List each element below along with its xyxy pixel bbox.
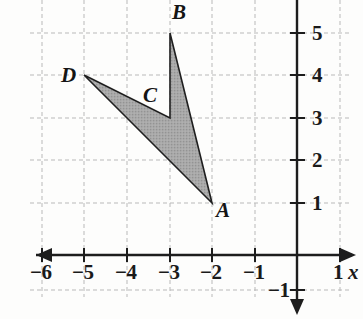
y-axis [290, 0, 304, 315]
coordinate-plane-figure: −6 −5 −4 −3 −2 −1 1 x 5 4 3 2 1 −1 A B C… [0, 0, 363, 319]
y-tick-label-5: 5 [312, 23, 322, 44]
vertex-label-c: C [143, 85, 157, 106]
x-tick-label-minus4: −4 [115, 262, 136, 283]
x-tick-label-minus3: −3 [158, 262, 179, 283]
x-tick-label-minus6: −6 [30, 262, 51, 283]
x-tick-label-minus1: −1 [243, 262, 264, 283]
vertex-label-d: D [61, 65, 76, 86]
y-tick-label-4: 4 [312, 65, 322, 86]
y-tick-label-3: 3 [312, 108, 322, 129]
plot-canvas [0, 0, 363, 319]
y-tick-label-2: 2 [312, 150, 322, 171]
x-tick-label-1: 1 [333, 262, 343, 283]
arrow-down-icon [290, 299, 304, 315]
vertex-label-b: B [172, 2, 186, 23]
x-tick-label-minus2: −2 [200, 262, 221, 283]
vertex-label-a: A [216, 200, 230, 221]
x-axis-name: x [348, 262, 359, 283]
x-tick-label-minus5: −5 [72, 262, 93, 283]
y-tick-label-1: 1 [312, 193, 322, 214]
y-tick-label-minus1: −1 [268, 280, 289, 301]
